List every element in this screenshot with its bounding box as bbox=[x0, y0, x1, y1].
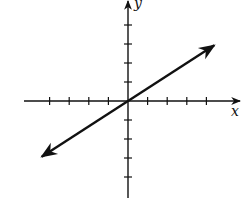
coordinate-plane: x y bbox=[0, 0, 242, 199]
x-axis-label: x bbox=[231, 103, 239, 119]
y-axis-label: y bbox=[133, 0, 143, 11]
